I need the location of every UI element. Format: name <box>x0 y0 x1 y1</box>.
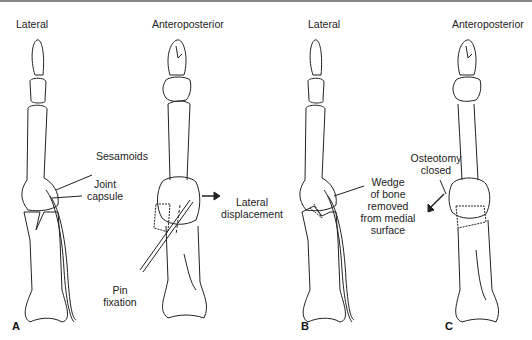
annotation-pin-fixation: Pin fixation <box>100 284 140 308</box>
panel-label-a: A <box>12 320 20 332</box>
annotation-sesamoids: Sesamoids <box>96 150 148 162</box>
toe-ap-c <box>428 40 499 322</box>
annotation-lateral-displacement-line2: displacement <box>221 208 283 220</box>
panel-label-b: B <box>301 320 309 332</box>
annotation-lateral-displacement: Lateral displacement <box>220 196 284 220</box>
annotation-wedge-line1: Wedge <box>371 176 404 188</box>
annotation-joint-capsule-line1: Joint <box>94 178 116 190</box>
annotation-wedge-of-bone: Wedge of bone removed from medial surfac… <box>358 176 418 236</box>
annotation-pin-fixation-line1: Pin <box>112 284 127 296</box>
annotation-wedge-line2: of bone <box>370 188 405 200</box>
annotation-osteotomy-line1: Osteotomy <box>411 152 462 164</box>
annotation-osteotomy-closed: Osteotomy closed <box>410 152 462 176</box>
panel-label-c: C <box>445 320 453 332</box>
annotation-pin-fixation-line2: fixation <box>103 296 136 308</box>
annotation-osteotomy-line2: closed <box>421 164 451 176</box>
annotation-wedge-line4: from medial <box>361 212 416 224</box>
toe-ap-a <box>140 40 220 318</box>
annotation-wedge-line3: removed <box>368 200 409 212</box>
annotation-wedge-line5: surface <box>371 224 405 236</box>
annotation-joint-capsule: Joint capsule <box>80 178 130 202</box>
annotation-lateral-displacement-line1: Lateral <box>236 196 268 208</box>
toe-lateral-b <box>300 40 364 322</box>
annotation-joint-capsule-line2: capsule <box>87 190 123 202</box>
